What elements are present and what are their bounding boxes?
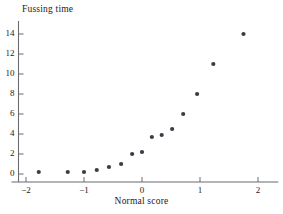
y-tick-label: 10 bbox=[0, 68, 15, 78]
data-point bbox=[130, 152, 134, 156]
data-point bbox=[107, 165, 111, 169]
y-tick-label: 2 bbox=[0, 148, 15, 158]
data-point bbox=[82, 170, 86, 174]
x-tick-label: 1 bbox=[190, 185, 210, 195]
axes bbox=[12, 21, 279, 182]
y-tick-label: 4 bbox=[0, 128, 15, 138]
x-tick-label: −2 bbox=[16, 185, 36, 195]
x-tick-label: −1 bbox=[74, 185, 94, 195]
data-points bbox=[37, 32, 246, 174]
data-point bbox=[195, 92, 199, 96]
data-point bbox=[181, 112, 185, 116]
data-point bbox=[140, 150, 144, 154]
data-point bbox=[211, 62, 215, 66]
data-point bbox=[66, 170, 70, 174]
y-tick-label: 0 bbox=[0, 168, 15, 178]
data-point bbox=[119, 162, 123, 166]
x-axis-title: Normal score bbox=[0, 196, 283, 206]
tick-marks bbox=[19, 34, 259, 182]
data-point bbox=[150, 135, 154, 139]
data-point bbox=[170, 127, 174, 131]
x-tick-label: 0 bbox=[132, 185, 152, 195]
data-point bbox=[160, 133, 164, 137]
data-point bbox=[95, 168, 99, 172]
scatter-chart: Fussing time 02468101214 −2−1012 Normal … bbox=[0, 0, 283, 214]
y-tick-label: 12 bbox=[0, 48, 15, 58]
y-tick-label: 6 bbox=[0, 108, 15, 118]
data-point bbox=[37, 170, 41, 174]
x-tick-label: 2 bbox=[248, 185, 268, 195]
y-tick-label: 8 bbox=[0, 88, 15, 98]
data-point bbox=[241, 32, 245, 36]
plot-area bbox=[0, 0, 283, 214]
y-tick-label: 14 bbox=[0, 28, 15, 38]
